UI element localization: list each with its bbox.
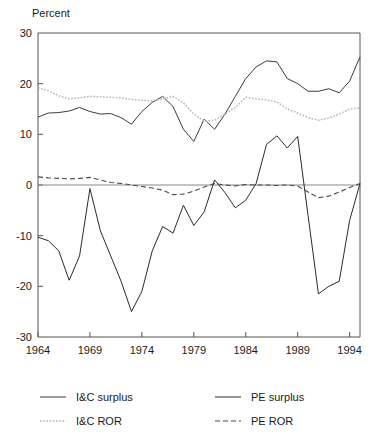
y-tick-label: 0: [26, 179, 32, 191]
series-line-pe-surplus: [38, 136, 360, 312]
x-tick-label: 1989: [285, 344, 309, 356]
y-tick-label: -20: [16, 280, 32, 292]
series-line-i-c-surplus: [38, 57, 360, 142]
legend-label: PE ROR: [251, 415, 293, 427]
legend-label: PE surplus: [251, 391, 305, 403]
y-tick-label: 30: [20, 27, 32, 39]
x-tick-label: 1979: [182, 344, 206, 356]
x-tick-label: 1994: [337, 344, 361, 356]
x-tick-label: 1984: [233, 344, 257, 356]
x-tick-label: 1964: [26, 344, 50, 356]
series-line-pe-ror: [38, 177, 360, 198]
y-axis-label: Percent: [32, 7, 70, 19]
y-tick-label: -10: [16, 230, 32, 242]
y-tick-label: 10: [20, 128, 32, 140]
series-group: [38, 57, 360, 312]
series-line-i-c-ror: [38, 88, 360, 121]
x-tick-group: 1964196919741979198419891994: [26, 332, 362, 356]
y-tick-label: -30: [16, 331, 32, 343]
x-tick-label: 1974: [130, 344, 154, 356]
chart-legend: I&C surplusPE surplusI&C RORPE ROR: [40, 391, 305, 427]
chart-figure: Percent 3020100-10-20-30 196419691974197…: [0, 0, 371, 440]
y-tick-label: 20: [20, 78, 32, 90]
legend-label: I&C ROR: [76, 415, 122, 427]
legend-label: I&C surplus: [76, 391, 133, 403]
x-tick-label: 1969: [78, 344, 102, 356]
